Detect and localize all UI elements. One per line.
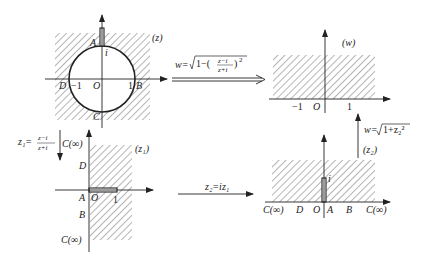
formula-suffix: ) <box>234 58 237 70</box>
plane-label: (z₁) <box>135 143 150 155</box>
formula-radicand-prefix: 1−( <box>196 58 211 70</box>
point-B-label: B <box>136 80 142 91</box>
formula-lhs: w= <box>175 59 188 70</box>
point-A-label: A <box>326 204 334 215</box>
point-A-label: A <box>89 37 97 48</box>
point-B-label: B <box>79 209 85 220</box>
conformal-mapping-diagram: (z) A i D −1 O 1 B C w= 1−( z−i z+i ) 2 … <box>0 0 426 256</box>
origin-label: O <box>313 101 320 112</box>
point-i-label: i <box>105 47 108 58</box>
plane-label: (z₂) <box>363 144 378 156</box>
panel-z2: (z₂) i C(∞) D O A B C(∞) <box>263 135 390 218</box>
plane-label: (z) <box>152 32 163 44</box>
tick-1-label: 1 <box>128 80 133 91</box>
origin-label: O <box>91 192 98 203</box>
point-D-label: D <box>58 80 67 91</box>
formula-radicand: 1+z₂² <box>383 124 405 135</box>
point-C-left-label: C(∞) <box>263 204 284 216</box>
point-i-label: i <box>328 173 331 184</box>
tick-neg1-label: −1 <box>71 80 82 91</box>
mapping-z-to-w: w= 1−( z−i z+i ) 2 <box>172 56 265 84</box>
formula-lhs: z₁= <box>17 136 32 147</box>
point-C-right-label: C(∞) <box>366 204 387 216</box>
hatched-region <box>273 55 375 99</box>
panel-z: (z) A i D −1 O 1 B C <box>45 15 167 128</box>
formula: z₂=iz₁ <box>204 181 229 192</box>
formula-denominator: z+i <box>217 66 227 74</box>
panel-z1: (z₁) C(∞) D A O 1 B C(∞) <box>55 130 153 252</box>
origin-label: O <box>93 80 100 91</box>
formula-denominator: z+i <box>37 144 47 152</box>
point-B-label: B <box>346 204 352 215</box>
point-C-bottom-label: C(∞) <box>61 234 82 246</box>
formula-lhs: w= <box>364 124 377 135</box>
point-C-label: C <box>93 111 100 122</box>
point-A-label: A <box>78 192 86 203</box>
point-C-top-label: C(∞) <box>62 138 83 150</box>
point-D-label: D <box>295 204 304 215</box>
origin-label: O <box>313 204 320 215</box>
formula-numerator: z−i <box>217 57 227 65</box>
formula-power: 2 <box>239 56 243 64</box>
tick-neg1-label: −1 <box>292 101 303 112</box>
mapping-z1-to-z2: z₂=iz₁ <box>178 181 253 194</box>
panel-w: (w) −1 O 1 <box>269 30 390 113</box>
formula-numerator: z−i <box>37 134 47 142</box>
tick-1-label: 1 <box>347 101 352 112</box>
mapping-z-to-z1: z₁= z−i z+i <box>17 130 60 160</box>
point-D-label: D <box>78 160 87 171</box>
plane-label: (w) <box>342 37 356 49</box>
tick-1-label: 1 <box>113 194 118 205</box>
